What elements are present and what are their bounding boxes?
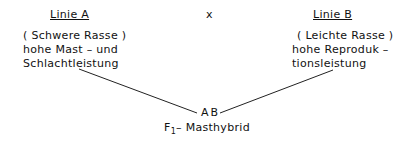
connector-line-a — [79, 69, 197, 113]
generation-description: – Masthybrid — [176, 121, 250, 134]
lineA-trait-2: Schlachtleistung — [23, 57, 119, 71]
lineB-breed: ( Leichte Rasse ) — [297, 29, 393, 43]
offspring-generation: F1– Masthybrid — [164, 121, 250, 139]
lineB-trait-1: hohe Reproduk – — [292, 43, 389, 57]
lineB-trait-2: tionsleistung — [292, 57, 367, 71]
lineA-breed: ( Schwere Rasse ) — [23, 29, 126, 43]
offspring-label: AB — [201, 106, 220, 120]
connector-line-b — [220, 70, 333, 113]
generation-letter: F — [164, 121, 171, 134]
lineB-title: Linie B — [313, 8, 352, 22]
lineA-title: Linie A — [50, 8, 89, 22]
cross-symbol: x — [206, 8, 213, 22]
lineA-trait-1: hohe Mast – und — [23, 43, 118, 57]
